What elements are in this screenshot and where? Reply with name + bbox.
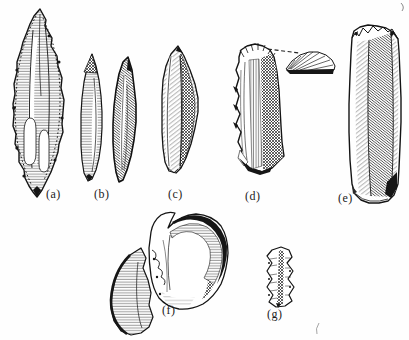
- label-f: (f): [162, 303, 176, 318]
- label-b: (b): [94, 187, 110, 202]
- artifact-b-drawing: [81, 54, 136, 182]
- scan-mark-top-right: [401, 3, 403, 11]
- artifact-illustrations: [0, 0, 409, 340]
- label-d: (d): [245, 189, 261, 204]
- artifact-a-drawing: [12, 9, 64, 197]
- artifact-c-drawing: [162, 46, 198, 173]
- artifact-g-drawing: [267, 247, 294, 308]
- dashed-leader-line: [268, 49, 299, 53]
- label-e: (e): [338, 191, 353, 206]
- figure-plate: (a) (b) (c) (d) (e) (f) (g): [0, 0, 409, 340]
- detached-flake-drawing: [286, 52, 335, 74]
- scan-mark-bottom-right: [316, 323, 319, 334]
- label-c: (c): [168, 187, 183, 202]
- artifact-e-drawing: [349, 25, 401, 203]
- artifact-d-drawing: [233, 43, 335, 175]
- label-a: (a): [46, 187, 61, 202]
- label-g: (g): [267, 307, 283, 322]
